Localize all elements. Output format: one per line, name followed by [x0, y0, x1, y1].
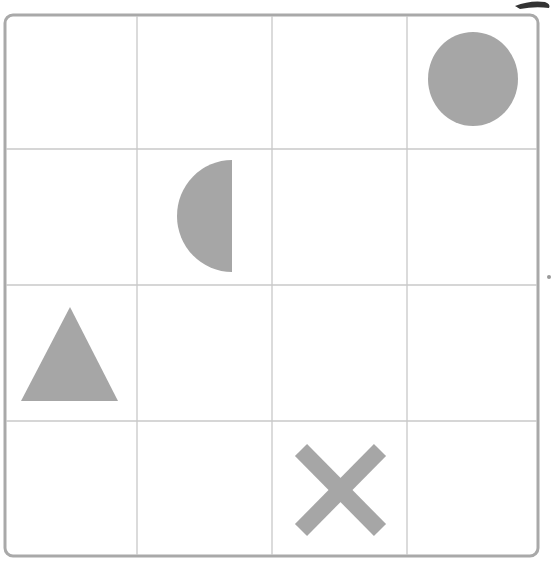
- cell-r1-c2[interactable]: [137, 16, 272, 149]
- cell-r1-c1[interactable]: [6, 16, 137, 149]
- cell-r4-c2[interactable]: [137, 421, 272, 555]
- cell-r2-c4[interactable]: [407, 149, 537, 285]
- cell-r3-c4[interactable]: [407, 285, 537, 421]
- decorative-mark: [547, 275, 551, 279]
- decorative-smudge: [515, 2, 550, 10]
- cell-r4-c4[interactable]: [407, 421, 537, 555]
- cell-r2-c3[interactable]: [272, 149, 407, 285]
- cell-r4-c1[interactable]: [6, 421, 137, 555]
- cell-r3-c2[interactable]: [137, 285, 272, 421]
- cell-r3-c3[interactable]: [272, 285, 407, 421]
- circle-shape-icon: [428, 32, 518, 126]
- cell-r2-c1[interactable]: [6, 149, 137, 285]
- grid-board: [0, 0, 551, 562]
- cell-r1-c3[interactable]: [272, 16, 407, 149]
